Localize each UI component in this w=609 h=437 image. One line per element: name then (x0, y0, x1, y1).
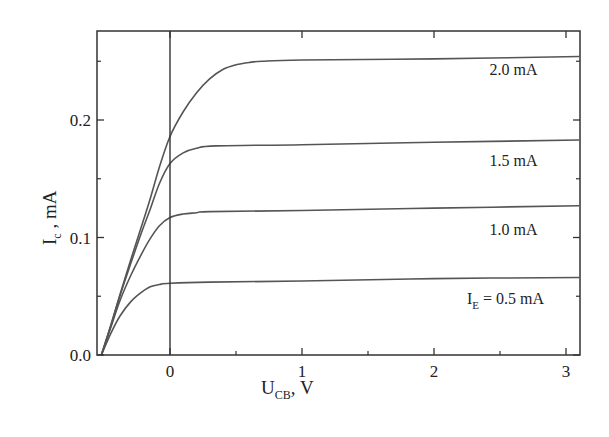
x-axis-title-sub: CB (275, 388, 291, 402)
series-label: 2.0 mA (489, 61, 537, 78)
y-tick-label: 0.2 (70, 111, 91, 130)
series-label: 1.5 mA (489, 152, 537, 169)
x-tick-label: 0 (166, 362, 175, 381)
series-label: 1.0 mA (489, 221, 537, 238)
curve-series-2 (101, 140, 579, 355)
series-label: IE = 0.5 mA (467, 290, 545, 311)
curve-series-0 (101, 277, 579, 355)
y-tick-label: 0.1 (70, 229, 91, 248)
x-axis-title-unit: , V (291, 377, 314, 398)
y-tick-label: 0.0 (70, 346, 91, 365)
y-axis-title: Ic , mA (39, 190, 64, 245)
curves-group (101, 57, 579, 355)
ic-vs-ucb-chart: 01230.00.10.2 2.0 mA1.5 mA1.0 mAIE = 0.5… (0, 0, 609, 437)
x-tick-label: 2 (430, 362, 439, 381)
x-axis-title-main: U (261, 377, 275, 398)
series-labels: 2.0 mA1.5 mA1.0 mAIE = 0.5 mA (467, 61, 545, 311)
y-axis-title-unit: , mA (39, 190, 60, 233)
curve-series-3 (101, 57, 579, 355)
x-tick-label: 3 (562, 362, 571, 381)
x-axis-title: UCB, V (261, 377, 314, 402)
